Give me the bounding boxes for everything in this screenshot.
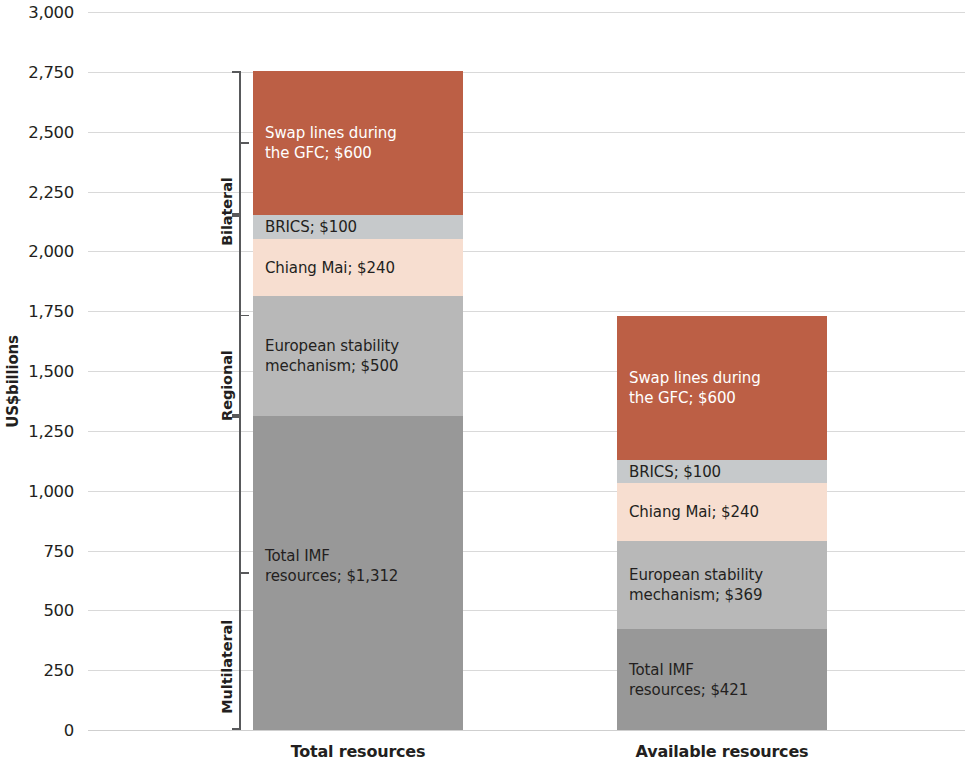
y-axis-tick-label: 1,500 bbox=[4, 362, 74, 381]
bracket-cap bbox=[232, 728, 241, 730]
bar-segment[interactable]: Swap lines during the GFC; $600 bbox=[253, 71, 463, 215]
stacked-bar-chart: US$billions 3,0002,7502,5002,2502,0001,7… bbox=[0, 0, 965, 763]
y-axis-tick-label: 2,250 bbox=[4, 182, 74, 201]
gridline bbox=[88, 610, 965, 611]
bar-total-resources[interactable]: Total IMF resources; $1,312European stab… bbox=[253, 71, 463, 730]
bracket-cap bbox=[232, 71, 241, 73]
y-axis-tick-label: 2,000 bbox=[4, 242, 74, 261]
group-bracket-label: Regional bbox=[219, 351, 235, 422]
bar-segment-label: European stability mechanism; $369 bbox=[629, 565, 763, 605]
bar-segment[interactable]: Chiang Mai; $240 bbox=[253, 239, 463, 296]
category-label: Available resources bbox=[617, 742, 827, 761]
bracket-tick bbox=[241, 142, 249, 144]
y-axis-tick-label: 1,750 bbox=[4, 302, 74, 321]
bar-segment-label: Chiang Mai; $240 bbox=[629, 502, 759, 522]
bar-segment-label: Chiang Mai; $240 bbox=[265, 258, 395, 278]
gridline bbox=[88, 311, 965, 312]
group-bracket-label: Multilateral bbox=[219, 620, 235, 714]
bar-segment[interactable]: Total IMF resources; $421 bbox=[617, 629, 827, 730]
gridline bbox=[88, 551, 965, 552]
y-axis-tick-label: 2,750 bbox=[4, 62, 74, 81]
bar-segment[interactable]: European stability mechanism; $369 bbox=[617, 541, 827, 629]
y-axis-tick-label: 1,250 bbox=[4, 421, 74, 440]
group-bracket-label: Bilateral bbox=[219, 177, 235, 246]
bar-segment-label: Swap lines during the GFC; $600 bbox=[265, 123, 397, 163]
plot-area: 3,0002,7502,5002,2502,0001,7501,5001,250… bbox=[88, 12, 965, 730]
bar-segment-label: Total IMF resources; $421 bbox=[629, 660, 748, 700]
y-axis-tick-label: 750 bbox=[4, 541, 74, 560]
group-bracket: Bilateral bbox=[227, 71, 241, 215]
gridline bbox=[88, 730, 965, 731]
y-axis-tick-label: 0 bbox=[4, 721, 74, 740]
gridline bbox=[88, 12, 965, 13]
category-label: Total resources bbox=[253, 742, 463, 761]
y-axis-tick-label: 3,000 bbox=[4, 3, 74, 22]
bar-segment[interactable]: BRICS; $100 bbox=[253, 215, 463, 239]
bar-segment[interactable]: Total IMF resources; $1,312 bbox=[253, 416, 463, 730]
y-axis-title: US$billions bbox=[0, 0, 26, 763]
bar-segment-label: BRICS; $100 bbox=[629, 462, 721, 482]
y-axis-tick-label: 500 bbox=[4, 601, 74, 620]
group-bracket: Multilateral bbox=[227, 416, 241, 730]
bar-segment[interactable]: Chiang Mai; $240 bbox=[617, 483, 827, 540]
gridline bbox=[88, 132, 965, 133]
gridline bbox=[88, 491, 965, 492]
gridline bbox=[88, 72, 965, 73]
y-axis-tick-label: 1,000 bbox=[4, 481, 74, 500]
bar-segment-label: European stability mechanism; $500 bbox=[265, 336, 399, 376]
bar-segment[interactable]: European stability mechanism; $500 bbox=[253, 296, 463, 416]
bar-segment-label: Total IMF resources; $1,312 bbox=[265, 546, 398, 586]
bar-segment-label: Swap lines during the GFC; $600 bbox=[629, 368, 761, 408]
bar-segment[interactable]: Swap lines during the GFC; $600 bbox=[617, 316, 827, 460]
bar-available-resources[interactable]: Total IMF resources; $421European stabil… bbox=[617, 316, 827, 730]
bracket-tick bbox=[241, 315, 249, 317]
gridline bbox=[88, 251, 965, 252]
bar-segment[interactable]: BRICS; $100 bbox=[617, 460, 827, 484]
bar-segment-label: BRICS; $100 bbox=[265, 217, 357, 237]
bracket-tick bbox=[241, 572, 249, 574]
y-axis-tick-label: 250 bbox=[4, 661, 74, 680]
y-axis-tick-label: 2,500 bbox=[4, 122, 74, 141]
gridline bbox=[88, 431, 965, 432]
